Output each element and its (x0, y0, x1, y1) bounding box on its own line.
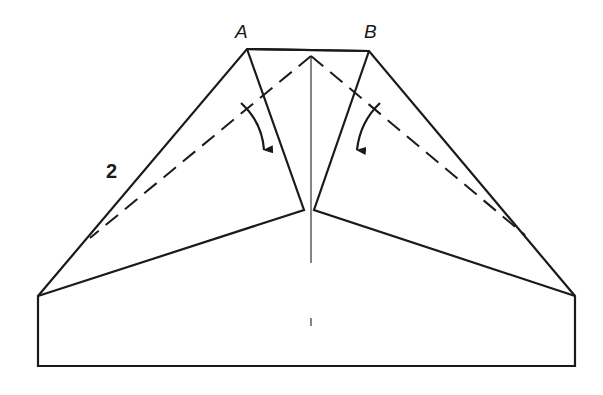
left-fold-line (90, 56, 311, 238)
paper-outline (38, 49, 575, 366)
folding-diagram (0, 0, 603, 395)
point-a-label: A (235, 22, 248, 41)
point-b-label: B (364, 22, 377, 41)
right-fold-line (311, 56, 525, 235)
step-number-label: 2 (106, 161, 117, 181)
top-edge (247, 49, 369, 51)
right-flap-edge (314, 51, 575, 296)
